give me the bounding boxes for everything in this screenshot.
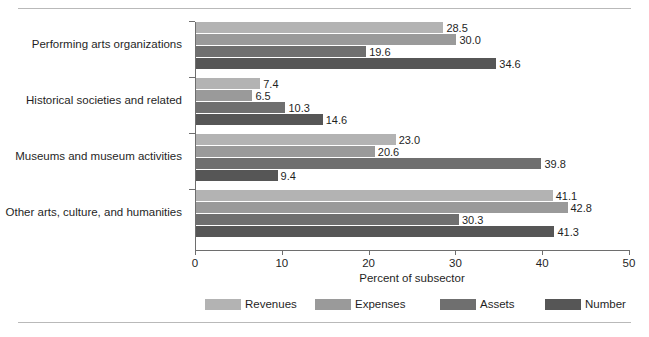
- bar: [196, 214, 459, 225]
- category-label: Other arts, culture, and humanities: [4, 206, 182, 218]
- x-axis-tick: [455, 251, 456, 255]
- bar: [196, 114, 323, 125]
- legend-swatch-icon: [545, 299, 581, 310]
- legend-item-assets[interactable]: Assets: [440, 297, 515, 311]
- bar: [196, 46, 366, 57]
- legend-label: Expenses: [355, 298, 406, 310]
- category-label: Historical societies and related: [4, 94, 182, 106]
- bar: [196, 22, 443, 33]
- x-axis-tick-label: 20: [349, 256, 389, 270]
- legend-item-number[interactable]: Number: [545, 297, 626, 311]
- legend-item-expenses[interactable]: Expenses: [315, 297, 406, 311]
- legend-item-revenues[interactable]: Revenues: [205, 297, 297, 311]
- bar-value-label: 41.1: [556, 191, 577, 202]
- x-axis-tick-label: 10: [262, 256, 302, 270]
- bar-value-label: 19.6: [369, 47, 390, 58]
- y-axis-tick: [189, 133, 195, 134]
- bar: [196, 158, 541, 169]
- top-divider-rule: [18, 8, 631, 9]
- x-axis-tick-label: 50: [609, 256, 649, 270]
- x-axis-tick-label: 0: [175, 256, 215, 270]
- legend-swatch-icon: [205, 299, 241, 310]
- bottom-divider-rule: [18, 322, 631, 323]
- bar: [196, 34, 456, 45]
- category-label: Museums and museum activities: [4, 150, 182, 162]
- chart-legend: RevenuesExpensesAssetsNumber: [195, 297, 629, 313]
- legend-swatch-icon: [440, 299, 476, 310]
- bar-value-label: 28.5: [446, 23, 467, 34]
- legend-swatch-icon: [315, 299, 351, 310]
- bar: [196, 202, 568, 213]
- bar-value-label: 39.8: [544, 159, 565, 170]
- x-axis-tick: [282, 251, 283, 255]
- category-label: Performing arts organizations: [4, 38, 182, 50]
- bar: [196, 58, 496, 69]
- bar-value-label: 10.3: [288, 103, 309, 114]
- x-axis-title: Percent of subsector: [195, 272, 629, 284]
- legend-label: Revenues: [245, 298, 297, 310]
- chart-figure: 01020304050 Performing arts organization…: [0, 0, 649, 337]
- bar-value-label: 7.4: [263, 79, 278, 90]
- bar-value-label: 14.6: [326, 115, 347, 126]
- bar-value-label: 34.6: [499, 59, 520, 70]
- legend-label: Number: [585, 298, 626, 310]
- bar-value-label: 23.0: [399, 135, 420, 146]
- bar: [196, 226, 554, 237]
- x-axis-line: [195, 250, 630, 251]
- bar-value-label: 30.0: [459, 35, 480, 46]
- bar: [196, 78, 260, 89]
- legend-label: Assets: [480, 298, 515, 310]
- x-axis-tick-label: 30: [435, 256, 475, 270]
- y-axis-tick: [189, 189, 195, 190]
- bar-value-label: 42.8: [571, 203, 592, 214]
- x-axis-tick-label: 40: [522, 256, 562, 270]
- bar: [196, 134, 396, 145]
- x-axis-tick: [629, 251, 630, 255]
- bar: [196, 190, 553, 201]
- y-axis-tick: [189, 21, 195, 22]
- x-axis-tick: [195, 251, 196, 255]
- bar: [196, 146, 375, 157]
- bar: [196, 102, 285, 113]
- y-axis-tick: [189, 77, 195, 78]
- x-axis-tick: [369, 251, 370, 255]
- bar-value-label: 30.3: [462, 215, 483, 226]
- bar-value-label: 9.4: [281, 171, 296, 182]
- bar: [196, 170, 278, 181]
- bar: [196, 90, 252, 101]
- bar-value-label: 41.3: [557, 227, 578, 238]
- bar-value-label: 20.6: [378, 147, 399, 158]
- x-axis-tick: [542, 251, 543, 255]
- bar-value-label: 6.5: [255, 91, 270, 102]
